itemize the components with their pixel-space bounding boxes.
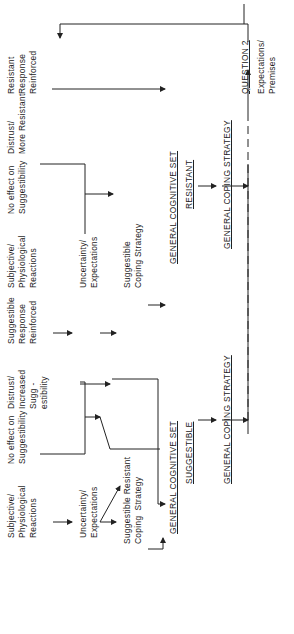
right-coping-label: Suggestible Coping Strategy [122,223,144,288]
right-reactions-label: Subjective/ Physiological Reactions [6,235,39,288]
flowchart-diagram: Subjective/ Physiological Reactions Unce… [0,0,294,634]
left-coping-label: Suggestible Resistant Coping Strategy [122,457,144,544]
question-label: QUESTION 2 [240,40,251,94]
right-cognitive-set-title: GENERAL COGNITIVE SET [168,151,179,264]
left-cognitive-set-type: SUGGESTIBLE [184,422,195,484]
right-distrust-label: Distrust/ More Resistant [6,93,28,154]
right-resistant-response-label: Resistant Response Reinforced [6,50,39,94]
right-no-effect-label: No effect on Suggestibility [6,160,28,214]
left-suggestible-response-label: Suggestible Response Reinforced [6,297,39,344]
right-uncertainty-label: Uncertainty/ Expectations [78,236,100,288]
left-general-coping: GENERAL COPING STRATEGY [222,355,233,484]
right-cognitive-set-type: RESISTANT [184,160,195,209]
question-sub-label: Expectations/ Premises [256,40,278,94]
left-cognitive-set-title: GENERAL COGNITIVE SET [168,421,179,534]
left-reactions-label: Subjective/ Physiological Reactions [6,485,39,538]
connector-lines [0,0,294,634]
left-no-effect-label: No effect on Suggestibility [6,410,28,464]
left-distrust-label: Distrust/ Increased Sugg - estibility [6,370,50,409]
left-uncertainty-label: Uncertainty/ Expectations [78,486,100,538]
right-general-coping: GENERAL COPING STRATEGY [222,120,233,249]
